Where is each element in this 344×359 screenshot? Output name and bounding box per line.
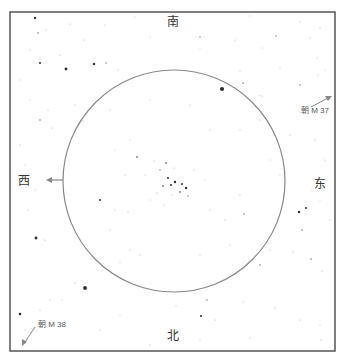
star xyxy=(318,75,319,76)
star xyxy=(162,185,164,187)
star xyxy=(199,36,200,37)
star xyxy=(185,187,187,189)
star xyxy=(312,190,313,191)
star xyxy=(25,165,26,166)
star xyxy=(298,211,300,213)
star xyxy=(145,175,146,176)
star xyxy=(259,264,261,266)
star xyxy=(93,63,95,65)
chart-frame xyxy=(10,12,335,351)
star xyxy=(35,237,38,240)
star xyxy=(47,109,48,110)
star xyxy=(99,199,101,201)
direction-east-label: 东 xyxy=(314,178,326,190)
star xyxy=(114,209,115,210)
star xyxy=(289,134,290,135)
star xyxy=(214,319,215,320)
star xyxy=(330,220,331,221)
star xyxy=(261,95,262,96)
star xyxy=(292,251,293,252)
star xyxy=(242,301,243,302)
star xyxy=(127,211,128,212)
star xyxy=(270,250,271,251)
star xyxy=(310,258,312,260)
star xyxy=(301,229,303,231)
pointer-m37-label: 朝 M 37 xyxy=(301,107,329,115)
star xyxy=(167,177,169,179)
star xyxy=(30,50,31,51)
star xyxy=(150,200,151,201)
star xyxy=(118,70,119,71)
direction-west-label: 西 xyxy=(18,175,30,187)
star xyxy=(239,194,240,195)
star xyxy=(259,119,260,120)
star-field xyxy=(19,16,331,346)
star xyxy=(210,130,211,131)
star xyxy=(135,17,136,18)
star xyxy=(280,175,281,176)
star xyxy=(20,80,21,81)
star xyxy=(156,192,157,193)
star xyxy=(320,325,321,326)
star xyxy=(206,299,208,301)
field-of-view-circle xyxy=(63,70,285,292)
star xyxy=(37,32,39,34)
star xyxy=(150,100,151,101)
star xyxy=(39,62,41,64)
star xyxy=(321,270,322,271)
star xyxy=(49,299,50,300)
star xyxy=(125,175,126,176)
star xyxy=(170,184,172,186)
star xyxy=(62,300,63,301)
star xyxy=(181,183,183,185)
star xyxy=(309,37,310,38)
star xyxy=(130,250,131,251)
star xyxy=(163,204,164,205)
star xyxy=(45,29,46,30)
star xyxy=(115,150,116,151)
star xyxy=(174,181,176,183)
m38-arrow-icon xyxy=(22,327,35,346)
star xyxy=(243,213,245,215)
star xyxy=(153,160,154,161)
star xyxy=(34,189,35,190)
star xyxy=(320,339,321,340)
star xyxy=(130,140,131,141)
star xyxy=(320,200,321,201)
star xyxy=(239,70,240,71)
star xyxy=(39,119,41,121)
star xyxy=(314,139,315,140)
star xyxy=(34,17,36,19)
star xyxy=(51,127,52,128)
star xyxy=(120,315,121,316)
star xyxy=(173,167,174,168)
star xyxy=(220,87,224,91)
star xyxy=(242,82,244,84)
star xyxy=(101,270,102,271)
star xyxy=(200,340,201,341)
pointer-m38-label: 朝 M 38 xyxy=(38,321,66,329)
star xyxy=(165,162,167,164)
star xyxy=(19,313,22,316)
star xyxy=(140,255,141,256)
star xyxy=(239,129,240,130)
star xyxy=(39,309,40,310)
star xyxy=(44,239,45,240)
star xyxy=(59,54,60,55)
star xyxy=(159,169,160,170)
direction-south-label: 南 xyxy=(167,16,179,28)
star xyxy=(187,195,188,196)
star xyxy=(299,84,301,86)
star xyxy=(280,68,281,69)
star xyxy=(20,145,21,146)
star xyxy=(200,315,202,317)
star xyxy=(250,338,251,339)
star xyxy=(65,68,68,71)
star xyxy=(205,180,206,181)
star xyxy=(209,209,210,210)
star xyxy=(136,156,138,158)
direction-north-label: 北 xyxy=(167,330,179,342)
star xyxy=(316,57,317,58)
star xyxy=(105,62,106,63)
star xyxy=(319,27,320,28)
